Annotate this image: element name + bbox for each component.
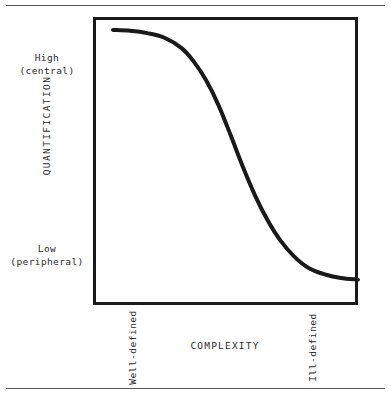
y-axis-label-low-line1: Low: [2, 243, 92, 256]
bottom-horizontal-rule: [6, 388, 385, 389]
chart-curve: [93, 17, 358, 305]
y-axis-title: QUANTIFICATION: [41, 66, 52, 186]
x-axis-label-well-defined: Well-defined: [127, 293, 138, 399]
figure-container: High (central) Low (peripheral) QUANTIFI…: [0, 0, 391, 399]
y-axis-label-low: Low (peripheral): [2, 243, 92, 268]
y-axis-label-low-line2: (peripheral): [2, 256, 92, 269]
x-axis-title: COMPLEXITY: [145, 340, 305, 351]
top-horizontal-rule: [6, 5, 385, 6]
y-axis-label-high-line1: High: [6, 52, 88, 65]
x-axis-label-ill-defined: Ill-defined: [307, 293, 318, 399]
